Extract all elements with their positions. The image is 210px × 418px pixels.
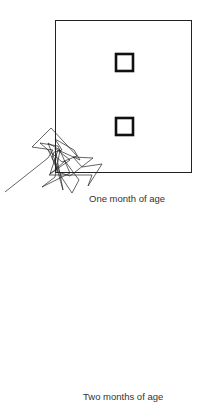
caption-two-months: Two months of age	[83, 391, 163, 402]
target-square-bottom	[116, 118, 133, 135]
panel-one-month	[5, 21, 192, 194]
caption-one-month: One month of age	[89, 193, 165, 204]
movement-path	[5, 128, 102, 193]
target-square-top	[116, 54, 133, 71]
diagram	[0, 0, 210, 418]
arena-square	[56, 21, 192, 173]
